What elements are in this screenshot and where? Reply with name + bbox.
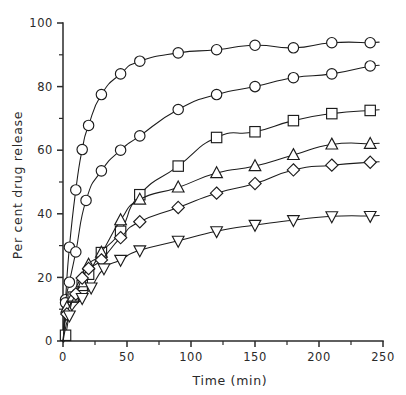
- data-point-marker: [364, 138, 376, 149]
- data-point-marker: [287, 164, 299, 176]
- x-tick-label: 100: [179, 350, 203, 364]
- y-tick-label: 60: [37, 143, 53, 157]
- data-point-marker: [81, 195, 91, 205]
- drug-release-chart-figure: 020406080100 050100150200250 Time (min) …: [0, 0, 406, 395]
- data-point-marker: [71, 247, 81, 257]
- data-point-marker: [326, 212, 338, 223]
- data-point-marker: [71, 185, 81, 195]
- y-axis-title: Per cent drug release: [10, 111, 25, 259]
- data-point-marker: [327, 108, 337, 118]
- data-point-marker: [288, 43, 298, 53]
- series-diamond: [61, 156, 380, 341]
- data-series-group: [60, 38, 379, 343]
- y-tick-label: 40: [37, 207, 53, 221]
- data-point-marker: [172, 201, 184, 213]
- data-point-marker: [327, 38, 337, 48]
- data-point-marker: [96, 89, 106, 99]
- y-axis-tick-labels: 020406080100: [29, 16, 53, 348]
- data-point-marker: [60, 330, 70, 340]
- data-point-marker: [96, 166, 106, 176]
- y-tick-label: 80: [37, 80, 53, 94]
- y-tick-label: 20: [37, 271, 53, 285]
- series-circle: [60, 38, 379, 341]
- x-axis-tick-labels: 050100150200250: [59, 350, 395, 364]
- y-tick-label: 0: [45, 334, 53, 348]
- data-point-marker: [250, 40, 260, 50]
- data-point-marker: [210, 187, 222, 199]
- data-point-marker: [288, 115, 298, 125]
- series-triangle-down: [63, 211, 379, 341]
- data-point-marker: [134, 216, 146, 228]
- data-point-marker: [173, 104, 183, 114]
- chart-plot-area: 020406080100 050100150200250 Time (min) …: [0, 0, 406, 395]
- data-point-marker: [173, 161, 183, 171]
- series-curve: [63, 66, 370, 341]
- data-point-marker: [135, 131, 145, 141]
- data-point-marker: [115, 69, 125, 79]
- series-circle: [60, 61, 379, 341]
- x-tick-label: 250: [371, 350, 395, 364]
- data-point-marker: [327, 69, 337, 79]
- data-point-marker: [77, 144, 87, 154]
- data-point-marker: [250, 81, 260, 91]
- data-point-marker: [83, 120, 93, 130]
- x-axis-title: Time (min): [192, 373, 268, 388]
- data-point-marker: [364, 156, 376, 168]
- data-point-marker: [135, 56, 145, 66]
- x-tick-label: 200: [307, 350, 331, 364]
- data-point-marker: [64, 277, 74, 287]
- data-point-marker: [365, 105, 375, 115]
- data-point-marker: [173, 48, 183, 58]
- data-point-marker: [211, 89, 221, 99]
- y-tick-label: 100: [29, 16, 53, 30]
- data-point-marker: [365, 38, 375, 48]
- data-point-marker: [211, 132, 221, 142]
- data-point-marker: [250, 127, 260, 137]
- data-point-marker: [365, 61, 375, 71]
- data-point-marker: [288, 73, 298, 83]
- data-point-marker: [115, 214, 127, 225]
- data-point-marker: [364, 211, 376, 222]
- x-tick-label: 50: [119, 350, 135, 364]
- data-point-marker: [326, 159, 338, 171]
- data-point-marker: [211, 45, 221, 55]
- data-point-marker: [115, 255, 127, 266]
- data-point-marker: [115, 145, 125, 155]
- x-tick-label: 150: [243, 350, 267, 364]
- x-tick-label: 0: [59, 350, 67, 364]
- data-point-marker: [249, 177, 261, 189]
